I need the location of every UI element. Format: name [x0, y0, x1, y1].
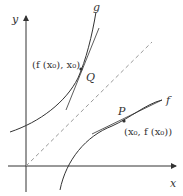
curve-g [10, 12, 96, 132]
inverse-function-diagram: y x g f Q P (f (x₀), x₀) (x₀, f (x₀)) [0, 0, 183, 196]
curve-g-label: g [93, 1, 100, 14]
point-P [122, 119, 125, 122]
point-Q-label: Q [86, 71, 95, 84]
point-P-label: P [117, 105, 126, 118]
point-P-coordinates: (x₀, f (x₀)) [124, 126, 172, 137]
point-Q-coordinates: (f (x₀), x₀) [32, 59, 80, 70]
x-axis-label: x [170, 177, 177, 190]
curve-f-label: f [165, 94, 172, 107]
curve-f [60, 100, 162, 190]
y-axis-label: y [11, 13, 19, 26]
